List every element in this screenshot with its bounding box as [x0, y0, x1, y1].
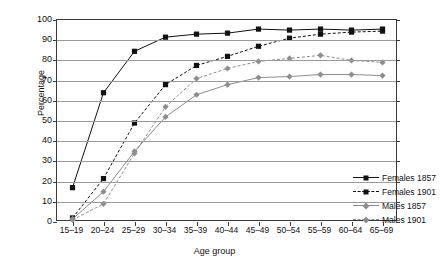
data-point	[162, 104, 168, 110]
gridline	[57, 40, 396, 41]
data-point	[256, 26, 261, 31]
legend-label: Females 1901	[379, 188, 436, 197]
data-point	[287, 28, 292, 33]
series-line	[73, 29, 383, 188]
y-tick-mark	[396, 40, 400, 41]
data-point	[318, 26, 323, 31]
data-point	[348, 71, 354, 77]
data-point	[256, 44, 261, 49]
data-point	[286, 73, 292, 79]
legend-marker-diamond	[362, 202, 369, 209]
legend-item-females-1901[interactable]: Females 1901	[353, 185, 441, 199]
data-point	[318, 32, 323, 37]
y-tick-label: 20	[42, 176, 52, 185]
x-tick-label: 20–24	[91, 226, 115, 235]
gridline	[57, 121, 396, 122]
gridline	[57, 101, 396, 102]
chart-legend: Females 1857Females 1901Males 1857Males …	[353, 171, 441, 227]
data-point	[317, 52, 323, 58]
y-tick-label: 30	[42, 156, 52, 165]
y-tick-mark	[53, 60, 57, 61]
gridline	[57, 81, 396, 82]
y-tick-mark	[396, 20, 400, 21]
y-tick-mark	[396, 101, 400, 102]
data-point	[224, 65, 230, 71]
y-tick-mark	[53, 222, 57, 223]
data-point	[379, 72, 385, 78]
data-point	[194, 32, 199, 37]
y-tick-mark	[396, 121, 400, 122]
data-point	[101, 176, 106, 181]
x-tick-label: 60–64	[339, 226, 363, 235]
y-tick-label: 80	[42, 55, 52, 64]
y-tick-mark	[53, 40, 57, 41]
legend-marker-square	[364, 176, 369, 181]
data-point	[255, 58, 261, 64]
x-tick-label: 65–69	[370, 226, 394, 235]
legend-marker-square	[364, 190, 369, 195]
data-point	[225, 31, 230, 36]
y-tick-label: 100	[37, 15, 52, 24]
x-tick-label: 15–19	[60, 226, 84, 235]
legend-label: Males 1857	[379, 202, 426, 211]
y-tick-mark	[53, 81, 57, 82]
y-axis-tick-labels: 0102030405060708090100	[0, 19, 52, 221]
legend-marker-diamond	[362, 216, 369, 223]
y-tick-mark	[53, 141, 57, 142]
data-point	[101, 90, 106, 95]
x-tick-label: 45–49	[246, 226, 270, 235]
y-tick-label: 90	[42, 35, 52, 44]
series-males-1857	[69, 71, 385, 222]
series-line	[73, 31, 383, 218]
gridline	[57, 202, 396, 203]
y-tick-mark	[396, 60, 400, 61]
x-tick-label: 25–29	[122, 226, 146, 235]
y-tick-label: 40	[42, 136, 52, 145]
y-tick-label: 60	[42, 95, 52, 104]
data-point	[225, 54, 230, 59]
x-tick-label: 55–59	[308, 226, 332, 235]
data-point	[380, 29, 385, 34]
gridline	[57, 60, 396, 61]
y-tick-mark	[53, 202, 57, 203]
x-tick-label: 35–39	[184, 226, 208, 235]
y-tick-mark	[53, 121, 57, 122]
data-point	[163, 82, 168, 87]
legend-item-females-1857[interactable]: Females 1857	[353, 171, 441, 185]
y-tick-mark	[396, 222, 400, 223]
x-tick-label: 30–34	[153, 226, 177, 235]
data-point	[224, 82, 230, 88]
x-tick-label: 40–44	[215, 226, 239, 235]
data-point	[70, 185, 75, 190]
series-line	[73, 75, 383, 219]
y-tick-mark	[396, 182, 400, 183]
data-point	[194, 63, 199, 68]
gridline	[57, 161, 396, 162]
data-point	[163, 35, 168, 40]
x-axis-title: Age group	[0, 246, 429, 256]
gridline	[57, 182, 396, 183]
y-tick-label: 70	[42, 75, 52, 84]
data-point	[317, 71, 323, 77]
series-males-1901	[69, 52, 385, 223]
y-tick-mark	[396, 161, 400, 162]
y-tick-label: 50	[42, 116, 52, 125]
y-tick-mark	[53, 182, 57, 183]
y-tick-mark	[53, 101, 57, 102]
legend-item-males-1901[interactable]: Males 1901	[353, 213, 441, 227]
series-females-1857	[70, 26, 385, 190]
gridline	[57, 141, 396, 142]
y-tick-mark	[53, 20, 57, 21]
y-tick-mark	[53, 161, 57, 162]
y-tick-mark	[396, 141, 400, 142]
legend-key	[353, 186, 379, 198]
x-tick-label: 50–54	[277, 226, 301, 235]
data-point	[349, 30, 354, 35]
y-tick-label: 10	[42, 196, 52, 205]
y-tick-mark	[396, 81, 400, 82]
x-axis-tick-labels: 15–1920–2425–2930–3435–3940–4445–4950–54…	[56, 226, 397, 240]
series-females-1901	[70, 29, 385, 221]
y-tick-label: 0	[47, 217, 52, 226]
plot-area: Females 1857Females 1901Males 1857Males …	[56, 19, 397, 221]
